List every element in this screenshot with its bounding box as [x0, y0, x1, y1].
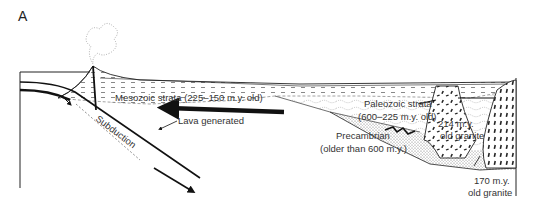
cross-section-diagram: Mesozoic strata (225–150 m.y. old) Paleo…	[0, 0, 538, 210]
label-granite214-1: 214 m.y.	[438, 118, 474, 129]
label-granite170-2: old granite	[468, 187, 512, 198]
plate-descent-arrow-icon	[154, 168, 192, 191]
label-paleozoic-2: (600–225 m.y. old)	[358, 111, 437, 122]
lava-leader-arrow-icon	[160, 121, 177, 129]
label-lava: Lava generated	[178, 115, 244, 126]
label-paleozoic-1: Paleozoic strata	[364, 98, 432, 109]
label-precambrian-2: (older than 600 m.y.)	[320, 143, 407, 154]
label-mesozoic: Mesozoic strata (225–150 m.y. old)	[115, 92, 263, 103]
plate-motion-arrow-icon	[168, 108, 284, 112]
label-granite214-2: old granite	[440, 130, 484, 141]
label-precambrian-1: Precambrian	[336, 130, 390, 141]
volcano-plume-icon	[86, 23, 117, 64]
label-granite170-1: 170 m.y.	[474, 175, 510, 186]
